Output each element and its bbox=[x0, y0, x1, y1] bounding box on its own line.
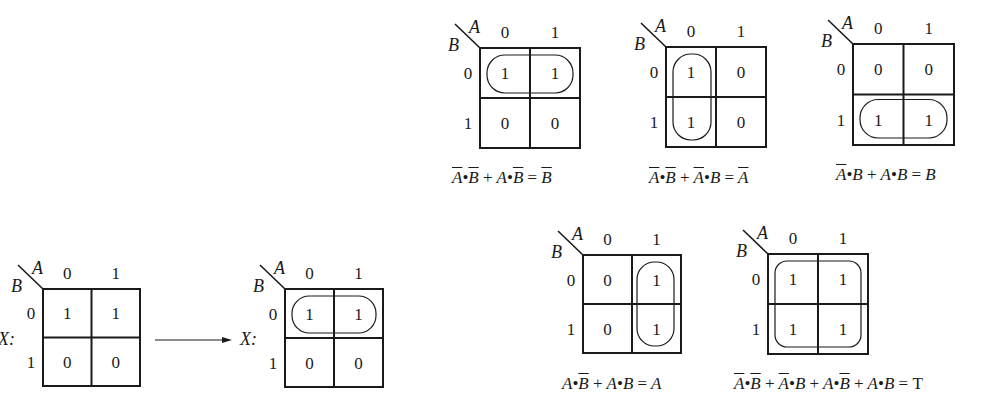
row-label: 1 bbox=[837, 111, 846, 130]
var-a-label: A bbox=[841, 13, 854, 33]
kmap-cell: 1 bbox=[652, 320, 661, 339]
kmap-cell: 1 bbox=[354, 305, 363, 324]
kmap-cell: 0 bbox=[305, 354, 314, 373]
col-label: 0 bbox=[305, 264, 314, 283]
kmap-cell: 1 bbox=[687, 63, 696, 82]
kmap-cell: 0 bbox=[63, 353, 72, 372]
equation-t: A•B + A•B + A•B + A•B = T bbox=[734, 374, 923, 394]
row-label: 0 bbox=[269, 305, 278, 324]
row-label: 0 bbox=[464, 64, 473, 83]
kmap-cell: 1 bbox=[839, 320, 848, 339]
kmap-cell: 0 bbox=[737, 63, 746, 82]
kmap-map-not-b: AB01011100 bbox=[448, 17, 580, 148]
karnaugh-maps-diagram: AB01011100X:AB01011100X:AB01011100AB0101… bbox=[0, 0, 999, 416]
row-label: 0 bbox=[27, 304, 36, 323]
var-a-label: A bbox=[273, 258, 286, 278]
col-label: 1 bbox=[551, 23, 560, 42]
var-a-label: A bbox=[571, 224, 584, 244]
var-a-label: A bbox=[654, 16, 667, 36]
row-label: 0 bbox=[567, 271, 576, 290]
kmap-cell: 0 bbox=[603, 271, 612, 290]
kmap-cell: 1 bbox=[305, 305, 314, 324]
col-label: 0 bbox=[63, 264, 72, 283]
kmap-map-not-a: AB01011010 bbox=[634, 16, 766, 147]
var-b-label: B bbox=[736, 241, 747, 261]
col-label: 1 bbox=[839, 229, 848, 248]
col-label: 1 bbox=[925, 19, 934, 38]
var-a-label: A bbox=[756, 223, 769, 243]
row-label: 1 bbox=[27, 353, 36, 372]
kmap-cell: 1 bbox=[501, 64, 510, 83]
var-a-label: A bbox=[468, 17, 481, 37]
kmap-cell: 0 bbox=[603, 320, 612, 339]
kmap-cell: 1 bbox=[652, 271, 661, 290]
kmap-cell: 1 bbox=[63, 304, 72, 323]
col-label: 0 bbox=[687, 22, 696, 41]
kmap-cell: 1 bbox=[925, 111, 934, 130]
kmap-cell: 1 bbox=[789, 270, 798, 289]
var-a-label: A bbox=[31, 258, 44, 278]
row-label: 1 bbox=[752, 320, 761, 339]
var-b-label: B bbox=[253, 276, 264, 296]
function-label: X: bbox=[0, 329, 15, 349]
row-label: 1 bbox=[567, 320, 576, 339]
col-label: 0 bbox=[501, 23, 510, 42]
col-label: 1 bbox=[112, 264, 121, 283]
row-label: 0 bbox=[837, 60, 846, 79]
var-b-label: B bbox=[551, 242, 562, 262]
var-b-label: B bbox=[448, 35, 459, 55]
function-label: X: bbox=[239, 329, 257, 349]
kmap-cell: 0 bbox=[501, 114, 510, 133]
kmap-cell: 0 bbox=[874, 60, 883, 79]
row-label: 1 bbox=[650, 113, 659, 132]
kmap-cell: 0 bbox=[925, 60, 934, 79]
kmap-cell: 1 bbox=[839, 270, 848, 289]
col-label: 1 bbox=[652, 230, 661, 249]
kmap-cell: 0 bbox=[112, 353, 121, 372]
var-b-label: B bbox=[11, 276, 22, 296]
col-label: 0 bbox=[603, 230, 612, 249]
equation-a: A•B + A•B = A bbox=[562, 374, 661, 394]
kmap-cell: 1 bbox=[551, 64, 560, 83]
equation-b: A•B + A•B = B bbox=[836, 165, 936, 185]
var-b-label: B bbox=[634, 34, 645, 54]
var-b-label: B bbox=[821, 31, 832, 51]
row-label: 1 bbox=[269, 354, 278, 373]
kmap-cell: 1 bbox=[789, 320, 798, 339]
col-label: 1 bbox=[737, 22, 746, 41]
kmap-cell: 0 bbox=[354, 354, 363, 373]
col-label: 1 bbox=[354, 264, 363, 283]
row-label: 0 bbox=[650, 63, 659, 82]
kmap-cell: 1 bbox=[874, 111, 883, 130]
equation-not-a: A•B + A•B = A bbox=[649, 168, 748, 188]
kmap-cell: 0 bbox=[737, 113, 746, 132]
kmap-cell: 1 bbox=[687, 113, 696, 132]
col-label: 0 bbox=[874, 19, 883, 38]
col-label: 0 bbox=[789, 229, 798, 248]
kmap-map-t: AB01011111 bbox=[736, 223, 868, 354]
kmap-map-a: AB01010101 bbox=[551, 224, 681, 353]
row-label: 0 bbox=[752, 270, 761, 289]
kmap-cell: 1 bbox=[112, 304, 121, 323]
arrow-icon bbox=[155, 337, 232, 343]
kmap-map-b: AB01010011 bbox=[821, 13, 954, 145]
kmap-x-after: AB01011100X: bbox=[239, 258, 383, 387]
kmap-x-before: AB01011100X: bbox=[0, 258, 140, 386]
kmap-cell: 0 bbox=[551, 114, 560, 133]
row-label: 1 bbox=[464, 114, 473, 133]
equation-not-b: A•B + A•B = B bbox=[452, 168, 552, 188]
